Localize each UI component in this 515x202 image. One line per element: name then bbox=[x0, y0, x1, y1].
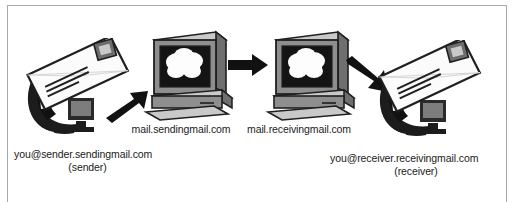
sending-server-label: mail.sendingmail.com bbox=[126, 123, 236, 136]
sender-endpoint-label: you@sender.sendingmail.com (sender) bbox=[14, 148, 174, 174]
receiver-endpoint-label: you@receiver.receivingmail.com (receiver… bbox=[330, 152, 510, 178]
receiver-role: (receiver) bbox=[330, 165, 502, 178]
sender-address: you@sender.sendingmail.com bbox=[14, 148, 152, 160]
sending-server-icon bbox=[140, 26, 234, 121]
receiving-server-label: mail.receivingmail.com bbox=[239, 123, 359, 136]
receiver-address: you@receiver.receivingmail.com bbox=[330, 152, 478, 164]
sender-role: (sender) bbox=[14, 161, 161, 174]
email-flow-diagram: you@sender.sendingmail.com (sender) bbox=[0, 0, 515, 202]
receiving-server-icon bbox=[262, 26, 356, 121]
receiver-endpoint-icon bbox=[368, 40, 498, 145]
